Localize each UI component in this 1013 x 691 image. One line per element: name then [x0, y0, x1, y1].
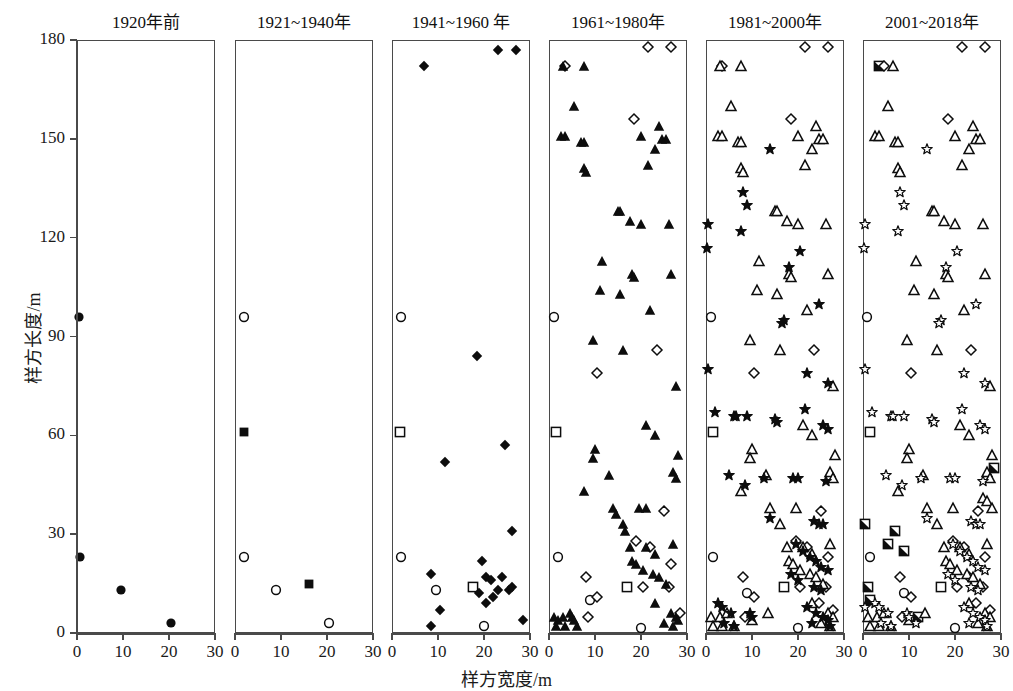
data-point-filled-triangle — [665, 268, 677, 280]
data-point-filled-diamond — [473, 587, 485, 599]
y-tick-mark — [70, 138, 77, 140]
plot-area-panel-2 — [235, 40, 373, 633]
data-point-open-triangle — [829, 449, 841, 461]
data-point-open-triangle — [801, 304, 813, 316]
data-point-open-square — [707, 426, 719, 438]
data-point-filled-star — [792, 472, 804, 484]
data-point-filled-triangle — [578, 136, 590, 148]
data-point-open-diamond — [799, 41, 811, 53]
data-point-open-triangle — [810, 120, 822, 132]
data-point-filled-star — [776, 317, 788, 329]
data-point-open-triangle — [986, 449, 998, 461]
data-point-open-circle — [707, 551, 719, 563]
data-point-half-square — [862, 581, 874, 593]
data-point-open-diamond — [965, 344, 977, 356]
data-point-open-diamond — [665, 558, 677, 570]
data-point-open-triangle — [792, 130, 804, 142]
data-point-filled-diamond — [418, 60, 430, 72]
data-point-filled-diamond — [517, 614, 529, 626]
data-point-open-diamond — [905, 591, 917, 603]
data-point-open-square — [935, 581, 947, 593]
x-tick-mark — [1000, 633, 1002, 640]
x-tick-label: 10 — [891, 642, 927, 662]
y-tick-mark — [70, 533, 77, 535]
x-tick-label: 0 — [59, 642, 95, 662]
data-point-open-triangle — [790, 502, 802, 514]
y-tick-mark — [70, 237, 77, 239]
data-point-open-star — [940, 261, 952, 273]
x-axis-line-panel-3 — [392, 633, 530, 635]
data-point-open-diamond — [642, 41, 654, 53]
y-axis-title: 样方长度/m — [19, 258, 45, 418]
data-point-filled-star — [806, 617, 818, 629]
data-point-open-diamond — [942, 113, 954, 125]
data-point-open-diamond — [637, 581, 649, 593]
data-point-open-circle — [395, 311, 407, 323]
x-tick-mark — [908, 633, 910, 640]
x-tick-mark — [843, 633, 845, 640]
data-point-open-triangle — [908, 284, 920, 296]
data-point-open-star — [866, 406, 878, 418]
data-point-open-diamond — [748, 591, 760, 603]
x-axis-line-panel-1 — [77, 633, 215, 635]
y-tick-label: 120 — [15, 227, 65, 247]
data-point-open-square — [621, 581, 633, 593]
x-axis-line-panel-4 — [549, 633, 687, 635]
x-tick-mark — [640, 633, 642, 640]
data-point-filled-star — [815, 584, 827, 596]
x-tick-mark — [594, 633, 596, 640]
data-point-filled-star — [764, 512, 776, 524]
data-point-open-triangle — [882, 100, 894, 112]
data-point-open-triangle — [774, 344, 786, 356]
data-point-filled-triangle — [587, 452, 599, 464]
data-point-half-square — [882, 538, 894, 550]
data-point-open-diamond — [785, 113, 797, 125]
data-point-open-triangle — [824, 538, 836, 550]
x-tick-mark — [214, 633, 216, 640]
data-point-open-triangle — [958, 304, 970, 316]
data-point-filled-star — [822, 377, 834, 389]
x-tick-label: 20 — [466, 642, 502, 662]
data-point-open-triangle — [931, 344, 943, 356]
data-point-open-circle — [238, 311, 250, 323]
data-point-open-triangle — [744, 452, 756, 464]
x-axis-title: 样方宽度/m — [0, 665, 1013, 691]
data-point-open-triangle — [901, 334, 913, 346]
data-point-open-star — [859, 601, 871, 613]
data-point-open-triangle — [963, 143, 975, 155]
data-point-filled-diamond — [434, 604, 446, 616]
data-point-filled-triangle — [578, 60, 590, 72]
data-point-filled-triangle — [624, 541, 636, 553]
data-point-open-triangle — [979, 268, 991, 280]
data-point-open-star — [928, 416, 940, 428]
x-tick-mark — [168, 633, 170, 640]
data-point-open-triangle — [928, 288, 940, 300]
x-tick-label: 0 — [531, 642, 567, 662]
y-tick-mark — [70, 336, 77, 338]
data-point-open-triangle — [910, 255, 922, 267]
data-point-filled-triangle — [571, 620, 583, 632]
data-point-open-circle — [270, 584, 282, 596]
data-point-open-diamond — [905, 367, 917, 379]
data-point-filled-triangle — [568, 100, 580, 112]
x-tick-mark — [280, 633, 282, 640]
data-point-half-square — [889, 525, 901, 537]
x-tick-mark — [686, 633, 688, 640]
data-point-open-star — [921, 512, 933, 524]
data-point-filled-triangle — [580, 166, 592, 178]
data-point-filled-triangle — [660, 133, 672, 145]
x-tick-label: 20 — [151, 642, 187, 662]
data-point-open-triangle — [725, 100, 737, 112]
data-point-open-circle — [861, 311, 873, 323]
data-point-open-star — [981, 620, 993, 632]
data-point-open-triangle — [949, 218, 961, 230]
data-point-filled-circle — [73, 311, 85, 323]
data-point-filled-star — [723, 469, 735, 481]
data-point-open-square — [550, 426, 562, 438]
y-tick-label: 180 — [15, 29, 65, 49]
data-point-open-triangle — [873, 130, 885, 142]
x-tick-mark — [391, 633, 393, 640]
data-point-filled-triangle — [640, 502, 652, 514]
data-point-filled-triangle — [642, 159, 654, 171]
y-tick-label: 30 — [15, 523, 65, 543]
